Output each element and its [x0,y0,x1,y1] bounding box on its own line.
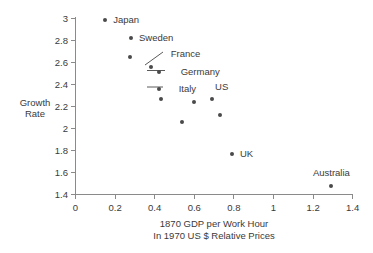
y-axis-title: Growth Rate [6,97,64,119]
point-label-germany: Germany [181,67,220,77]
y-tick-label: 2.4 [36,80,68,90]
point-label-italy: Italy [179,84,196,94]
point-label-australia: Australia [313,168,350,178]
x-tick-label: 0.8 [219,203,249,213]
x-axis-ticks [76,195,353,200]
point-label-france: France [171,49,201,59]
y-tick-label: 1.8 [36,146,68,156]
x-tick-label: 1.4 [338,203,368,213]
data-point [128,55,132,59]
y-axis-title-line2: Rate [6,108,64,119]
y-tick-label: 2.6 [36,58,68,68]
y-tick-label: 2.8 [36,36,68,46]
data-point-us [210,97,214,101]
point-label-us: US [215,82,228,92]
data-point [159,97,163,101]
x-axis-title-line1: 1870 GDP per Work Hour [75,218,353,230]
y-tick-label: 3 [36,14,68,24]
data-point-italy [157,87,161,91]
x-tick-label: 0.4 [140,203,170,213]
point-label-uk: UK [240,149,253,159]
x-tick-label: 1 [259,203,289,213]
x-tick-label: 1.2 [298,203,328,213]
y-tick-label: 1.4 [36,190,68,200]
data-point-australia [329,184,333,188]
y-tick-label: 2 [36,124,68,134]
data-point-japan [103,18,107,22]
x-tick-label: 0 [61,203,91,213]
y-axis-ticks [71,19,76,195]
data-point-uk [230,152,234,156]
x-tick-label: 0.6 [179,203,209,213]
x-axis-title: 1870 GDP per Work Hour In 1970 US $ Rela… [75,218,353,242]
axes [75,17,353,195]
point-label-sweden: Sweden [139,33,173,43]
label-leader-lines [145,52,165,87]
data-point-france [149,65,153,69]
x-tick-label: 0.2 [100,203,130,213]
point-label-japan: Japan [113,15,139,25]
x-axis-title-line2: In 1970 US $ Relative Prices [75,230,353,242]
y-tick-label: 1.6 [36,168,68,178]
france-leader-line [145,52,163,65]
y-axis-title-line1: Growth [6,97,64,108]
